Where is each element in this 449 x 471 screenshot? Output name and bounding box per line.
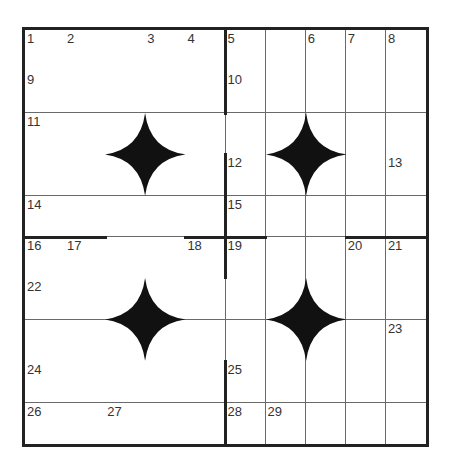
grid-cell[interactable]: 16 <box>25 237 66 279</box>
grid-cell[interactable] <box>105 71 146 113</box>
grid-cell[interactable] <box>266 113 307 155</box>
grid-cell[interactable] <box>346 154 387 196</box>
grid-cell[interactable] <box>105 320 146 362</box>
grid-cell[interactable] <box>306 71 347 113</box>
grid-cell[interactable] <box>145 403 186 444</box>
grid-cell[interactable] <box>185 196 226 238</box>
grid-cell[interactable] <box>306 196 347 238</box>
grid-cell[interactable] <box>306 361 347 403</box>
grid-cell[interactable] <box>266 320 307 362</box>
grid-cell[interactable]: 13 <box>386 154 426 196</box>
grid-cell[interactable]: 7 <box>346 30 387 72</box>
grid-cell[interactable] <box>185 154 226 196</box>
grid-cell[interactable]: 15 <box>226 196 267 238</box>
grid-cell[interactable] <box>346 320 387 362</box>
grid-cell[interactable]: 9 <box>25 71 66 113</box>
grid-cell[interactable] <box>185 71 226 113</box>
grid-cell[interactable] <box>65 71 106 113</box>
grid-cell[interactable] <box>105 154 146 196</box>
grid-cell[interactable] <box>306 237 347 279</box>
grid-cell[interactable]: 2 <box>65 30 106 72</box>
grid-cell[interactable] <box>386 278 426 320</box>
grid-cell[interactable]: 10 <box>226 71 267 113</box>
grid-cell[interactable]: 12 <box>226 154 267 196</box>
grid-cell[interactable]: 5 <box>226 30 267 72</box>
grid-cell[interactable] <box>306 320 347 362</box>
grid-cell[interactable] <box>105 30 146 72</box>
grid-cell[interactable] <box>306 278 347 320</box>
grid-cell[interactable] <box>346 196 387 238</box>
grid-cell[interactable] <box>306 403 347 444</box>
grid-cell[interactable]: 27 <box>105 403 146 444</box>
grid-cell[interactable]: 1 <box>25 30 66 72</box>
grid-cell[interactable] <box>105 113 146 155</box>
grid-cell[interactable] <box>266 154 307 196</box>
grid-cell[interactable]: 3 <box>145 30 186 72</box>
grid-cell[interactable]: 4 <box>185 30 226 72</box>
grid-cell[interactable]: 8 <box>386 30 426 72</box>
grid-cell[interactable] <box>105 361 146 403</box>
grid-cell[interactable] <box>346 403 387 444</box>
grid-cell[interactable] <box>185 113 226 155</box>
grid-cell[interactable] <box>185 278 226 320</box>
grid-cell[interactable] <box>25 320 66 362</box>
grid-cell[interactable]: 19 <box>226 237 267 279</box>
grid-cell[interactable] <box>65 113 106 155</box>
grid-cell[interactable] <box>145 196 186 238</box>
grid-cell[interactable]: 25 <box>226 361 267 403</box>
grid-cell[interactable] <box>145 320 186 362</box>
grid-cell[interactable]: 22 <box>25 278 66 320</box>
grid-cell[interactable]: 20 <box>346 237 387 279</box>
grid-cell[interactable] <box>145 113 186 155</box>
grid-cell[interactable] <box>346 361 387 403</box>
grid-cell[interactable]: 21 <box>386 237 426 279</box>
grid-cell[interactable] <box>266 30 307 72</box>
grid-cell[interactable] <box>185 361 226 403</box>
grid-cell[interactable] <box>185 403 226 444</box>
grid-cell[interactable] <box>145 361 186 403</box>
grid-cell[interactable] <box>386 196 426 238</box>
grid-cell[interactable] <box>306 154 347 196</box>
grid-cell[interactable] <box>145 237 186 279</box>
grid-cell[interactable] <box>226 320 267 362</box>
grid-cell[interactable] <box>266 237 307 279</box>
grid-cell[interactable] <box>65 361 106 403</box>
grid-cell[interactable]: 11 <box>25 113 66 155</box>
grid-cell[interactable] <box>185 320 226 362</box>
grid-cell[interactable] <box>386 403 426 444</box>
grid-cell[interactable] <box>145 154 186 196</box>
grid-cell[interactable] <box>346 71 387 113</box>
grid-cell[interactable] <box>346 278 387 320</box>
grid-cell[interactable] <box>105 278 146 320</box>
grid-cell[interactable] <box>65 196 106 238</box>
grid-cell[interactable] <box>266 361 307 403</box>
grid-cell[interactable]: 17 <box>65 237 106 279</box>
grid-cell[interactable] <box>266 71 307 113</box>
grid-cell[interactable] <box>65 154 106 196</box>
grid-cell[interactable] <box>145 71 186 113</box>
grid-cell[interactable] <box>105 237 146 279</box>
grid-cell[interactable] <box>306 113 347 155</box>
grid-cell[interactable] <box>25 154 66 196</box>
grid-cell[interactable] <box>145 278 186 320</box>
grid-cell[interactable] <box>65 320 106 362</box>
grid-cell[interactable] <box>266 196 307 238</box>
grid-cell[interactable] <box>266 278 307 320</box>
grid-cell[interactable]: 23 <box>386 320 426 362</box>
grid-cell[interactable] <box>386 361 426 403</box>
grid-cell[interactable]: 28 <box>226 403 267 444</box>
grid-cell[interactable] <box>386 113 426 155</box>
grid-cell[interactable] <box>346 113 387 155</box>
grid-cell[interactable] <box>105 196 146 238</box>
grid-cell[interactable]: 14 <box>25 196 66 238</box>
grid-cell[interactable]: 24 <box>25 361 66 403</box>
grid-cell[interactable]: 6 <box>306 30 347 72</box>
grid-cell[interactable]: 26 <box>25 403 66 444</box>
grid-cell[interactable] <box>65 403 106 444</box>
grid-cell[interactable] <box>226 113 267 155</box>
grid-cell[interactable] <box>65 278 106 320</box>
grid-cell[interactable]: 18 <box>185 237 226 279</box>
grid-cell[interactable] <box>386 71 426 113</box>
grid-cell[interactable]: 29 <box>266 403 307 444</box>
grid-cell[interactable] <box>226 278 267 320</box>
